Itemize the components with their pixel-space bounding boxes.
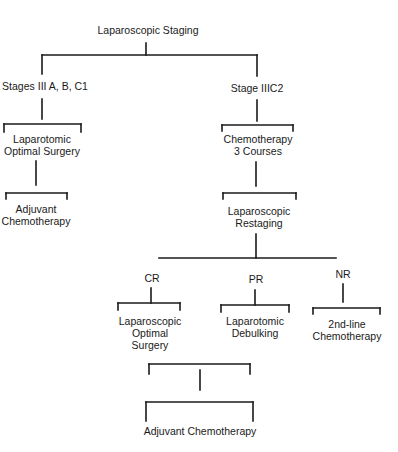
node-laparoscopic-optimal-surgery: Laparoscopic Optimal Surgery — [119, 315, 181, 351]
node-label: Stages III A, B, C1 — [2, 80, 88, 92]
node-label: Laparoscopic Staging — [98, 24, 199, 36]
node-label-line: Adjuvant — [2, 203, 71, 215]
node-label: Adjuvant Chemotherapy — [144, 425, 257, 437]
node-label-line: Chemotherapy — [224, 133, 293, 145]
node-label: NR — [335, 268, 350, 280]
node-laparoscopic-staging: Laparoscopic Staging — [98, 24, 199, 36]
node-laparotomic-optimal-surgery: Laparotomic Optimal Surgery — [4, 133, 80, 157]
node-nr: NR — [335, 268, 350, 280]
node-stage-iiic2: Stage IIIC2 — [231, 82, 284, 94]
node-cr: CR — [144, 272, 159, 284]
node-label-line: Laparoscopic — [228, 205, 290, 217]
node-label-line: Restaging — [228, 217, 290, 229]
node-adjuvant-chemotherapy-final: Adjuvant Chemotherapy — [144, 425, 257, 437]
node-stages-iii-abc1: Stages III A, B, C1 — [2, 80, 88, 92]
node-chemotherapy-3-courses: Chemotherapy 3 Courses — [224, 133, 293, 157]
node-label-line: 2nd-line — [313, 318, 382, 330]
node-label: Stage IIIC2 — [231, 82, 284, 94]
node-pr: PR — [249, 273, 264, 285]
node-label-line: Surgery — [119, 339, 181, 351]
node-label-line: 3 Courses — [224, 145, 293, 157]
node-label-line: Laparoscopic — [119, 315, 181, 327]
node-label-line: Laparotomic — [226, 315, 284, 327]
node-label: PR — [249, 273, 264, 285]
node-label-line: Debulking — [226, 327, 284, 339]
node-label: CR — [144, 272, 159, 284]
node-adjuvant-chemotherapy-left: Adjuvant Chemotherapy — [2, 203, 71, 227]
node-laparoscopic-restaging: Laparoscopic Restaging — [228, 205, 290, 229]
node-label-line: Optimal Surgery — [4, 145, 80, 157]
node-label-line: Chemotherapy — [2, 215, 71, 227]
node-laparotomic-debulking: Laparotomic Debulking — [226, 315, 284, 339]
node-2nd-line-chemotherapy: 2nd-line Chemotherapy — [313, 318, 382, 342]
node-label-line: Laparotomic — [4, 133, 80, 145]
node-label-line: Optimal — [119, 327, 181, 339]
node-label-line: Chemotherapy — [313, 330, 382, 342]
